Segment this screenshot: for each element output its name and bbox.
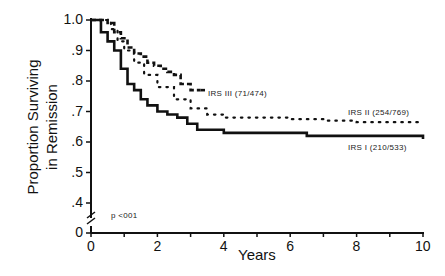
label-irs-iii: IRS III (71/474) <box>208 89 267 98</box>
label-irs-ii: IRS II (254/769) <box>348 108 409 117</box>
x-tick-label: 10 <box>415 238 431 254</box>
x-tick-label: 2 <box>153 238 161 254</box>
y-tick-label: .7 <box>71 103 83 119</box>
y-tick-label: 1.0 <box>64 11 83 27</box>
pvalue-annotation: p <001 <box>111 211 138 220</box>
y-tick-label: .4 <box>71 194 83 210</box>
chart-plot <box>0 0 445 276</box>
series-dotted-curve <box>91 20 423 122</box>
y-tick-label: .5 <box>71 164 83 180</box>
series-dashed-curve <box>91 20 201 90</box>
y-tick-label: .6 <box>71 133 83 149</box>
x-tick-label: 8 <box>353 238 361 254</box>
y-tick-label: .9 <box>71 42 83 58</box>
x-axis-title: Years <box>238 246 276 263</box>
series-solid-curve <box>91 20 423 139</box>
axis-break-mark <box>87 218 95 224</box>
label-irs-i: IRS I (210/533) <box>348 143 407 152</box>
y-tick-label: 0 <box>75 224 83 240</box>
x-tick-label: 6 <box>286 238 294 254</box>
x-tick-label: 4 <box>220 238 228 254</box>
y-tick-label: .8 <box>71 72 83 88</box>
x-tick-label: 0 <box>87 238 95 254</box>
